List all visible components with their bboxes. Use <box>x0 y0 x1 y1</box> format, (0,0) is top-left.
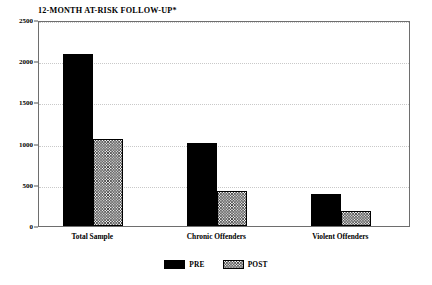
x-axis-category-label: Chronic Offenders <box>187 232 246 241</box>
bar-pre-total-sample <box>63 54 93 226</box>
hatched-swatch <box>223 260 244 269</box>
y-axis: 05001000150020002500 <box>0 21 38 227</box>
bar-post-total-sample <box>93 139 123 226</box>
bar-pre-chronic-offenders <box>187 143 217 226</box>
gridline <box>39 22 409 23</box>
x-axis-category-label: Violent Offenders <box>312 232 368 241</box>
y-axis-tick-label: 2000 <box>19 58 33 66</box>
gridline <box>39 104 409 105</box>
plot-frame <box>38 21 410 227</box>
x-axis-category-label: Total Sample <box>72 232 113 241</box>
chart-title: 12-MONTH AT-RISK FOLLOW-UP* <box>38 6 177 15</box>
legend-item-pre: PRE <box>164 260 204 269</box>
legend-item-post: POST <box>223 260 268 269</box>
y-axis-tick-label: 2500 <box>19 17 33 25</box>
y-axis-tick-label: 500 <box>23 182 34 190</box>
gridline <box>39 63 409 64</box>
chart-figure: 12-MONTH AT-RISK FOLLOW-UP* 050010001500… <box>0 0 432 285</box>
legend-label: POST <box>248 260 268 269</box>
y-axis-tick-label: 0 <box>30 223 34 231</box>
chart-legend: PREPOST <box>0 260 432 269</box>
legend-label: PRE <box>189 260 204 269</box>
bar-pre-violent-offenders <box>311 194 341 226</box>
y-axis-tick-label: 1000 <box>19 141 33 149</box>
y-axis-tick-label: 1500 <box>19 99 33 107</box>
plot-area <box>39 22 409 226</box>
bar-post-chronic-offenders <box>217 191 247 226</box>
solid-black-swatch <box>164 260 185 269</box>
bar-post-violent-offenders <box>341 211 371 226</box>
